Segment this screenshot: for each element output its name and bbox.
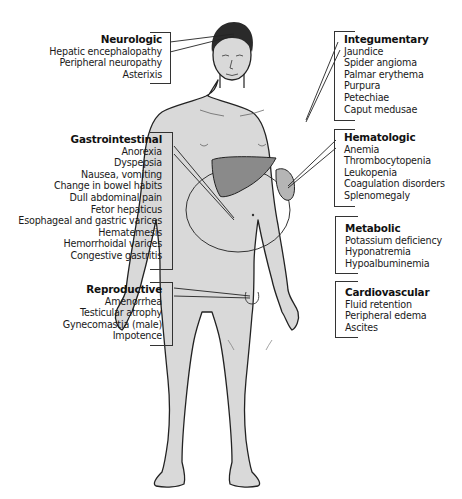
group-hematologic: Hematologic Anemia Thrombocytopenia Leuk… [344, 132, 462, 202]
group-title: Neurologic [20, 34, 162, 46]
group-neurologic: Neurologic Hepatic encephalopathy Periph… [20, 34, 162, 80]
group-integumentary: Integumentary Jaundice Spider angioma Pa… [344, 34, 462, 115]
bracket [150, 282, 173, 346]
group-title: Reproductive [20, 284, 162, 296]
list-item: Amenorrhea [20, 296, 162, 308]
group-title: Hematologic [344, 132, 462, 144]
list-item: Fluid retention [345, 299, 462, 311]
bracket [150, 132, 173, 270]
list-item: Change in bowel habits [0, 180, 162, 192]
group-gastrointestinal: Gastrointestinal Anorexia Dyspepsia Naus… [0, 134, 162, 262]
list-item: Peripheral edema [345, 310, 462, 322]
list-item: Hepatic encephalopathy [20, 46, 162, 58]
bracket [334, 129, 355, 207]
list-item: Hemorrhoidal varices [0, 238, 162, 250]
list-item: Coagulation disorders [344, 178, 462, 190]
list-item: Anorexia [0, 146, 162, 158]
bracket [334, 31, 355, 121]
list-item: Peripheral neuropathy [20, 57, 162, 69]
list-item: Impotence [20, 330, 162, 342]
bracket [335, 216, 358, 274]
group-cardiovascular: Cardiovascular Fluid retention Periphera… [345, 287, 462, 333]
list-item: Fetor hepaticus [0, 204, 162, 216]
list-item: Petechiae [344, 92, 462, 104]
group-title: Gastrointestinal [0, 134, 162, 146]
list-item: Dyspepsia [0, 157, 162, 169]
list-item: Potassium deficiency [345, 235, 462, 247]
list-item: Esophageal and gastric varices [0, 215, 162, 227]
group-title: Metabolic [345, 223, 462, 235]
list-item: Hematemesis [0, 227, 162, 239]
list-item: Ascites [345, 322, 462, 334]
list-item: Spider angioma [344, 57, 462, 69]
list-item: Nausea, vomiting [0, 169, 162, 181]
group-reproductive: Reproductive Amenorrhea Testicular atrop… [20, 284, 162, 342]
list-item: Jaundice [344, 46, 462, 58]
list-item: Leukopenia [344, 167, 462, 179]
list-item: Thrombocytopenia [344, 155, 462, 167]
list-item: Hyponatremia [345, 246, 462, 258]
group-title: Integumentary [344, 34, 462, 46]
bracket [150, 32, 171, 84]
list-item: Gynecomastia (male) [20, 319, 162, 331]
group-metabolic: Metabolic Potassium deficiency Hyponatre… [345, 223, 462, 269]
list-item: Splenomegaly [344, 190, 462, 202]
list-item: Hypoalbuminemia [345, 258, 462, 270]
list-item: Congestive gastritis [0, 250, 162, 262]
list-item: Purpura [344, 80, 462, 92]
list-item: Dull abdominal pain [0, 192, 162, 204]
list-item: Palmar erythema [344, 69, 462, 81]
group-title: Cardiovascular [345, 287, 462, 299]
list-item: Anemia [344, 144, 462, 156]
list-item: Asterixis [20, 69, 162, 81]
body-systems-diagram: Neurologic Hepatic encephalopathy Periph… [0, 0, 462, 499]
list-item: Caput medusae [344, 104, 462, 116]
list-item: Testicular atrophy [20, 307, 162, 319]
bracket [335, 281, 358, 338]
